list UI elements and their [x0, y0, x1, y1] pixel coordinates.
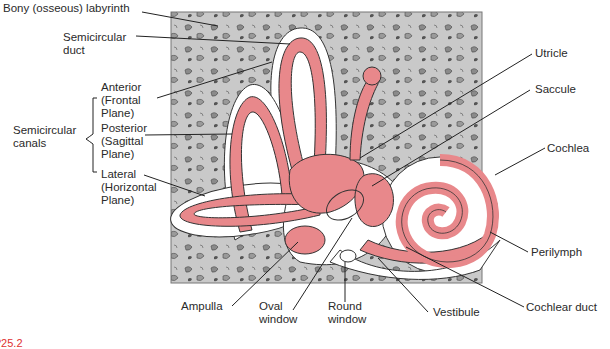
- figure-number: ?25.2: [0, 337, 23, 349]
- label-cochlear-duct: Cochlear duct: [526, 301, 597, 314]
- label-saccule: Saccule: [535, 83, 576, 96]
- label-lateral-canal: Lateral (Horizontal Plane): [101, 168, 157, 207]
- label-round-window: Round window: [328, 300, 366, 326]
- label-oval-window: Oval window: [259, 300, 297, 326]
- label-anterior-canal: Anterior (Frontal Plane): [101, 81, 141, 120]
- label-semicircular-duct: Semicircular duct: [63, 31, 126, 57]
- label-ampulla: Ampulla: [181, 300, 223, 313]
- label-semicircular-canals: Semicircular canals: [13, 124, 76, 150]
- label-perilymph: Perilymph: [531, 246, 582, 259]
- canals-brace: [86, 98, 97, 172]
- label-cochlea: Cochlea: [547, 142, 589, 155]
- label-utricle: Utricle: [535, 47, 568, 60]
- label-posterior-canal: Posterior (Sagittal Plane): [101, 122, 147, 161]
- label-bony-labyrinth: Bony (osseous) labyrinth: [3, 2, 130, 15]
- label-vestibule: Vestibule: [433, 306, 480, 319]
